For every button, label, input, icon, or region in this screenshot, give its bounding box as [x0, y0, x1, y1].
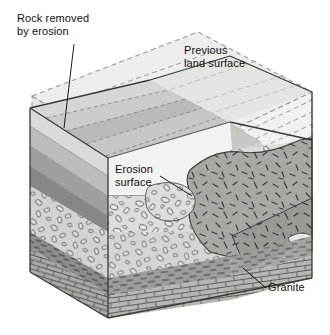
label-rock-removed: Rock removed by erosion [17, 12, 89, 37]
conglomerate-roof-pendant [146, 183, 196, 221]
label-previous-land-surface: Previous land surface [184, 44, 245, 69]
label-erosion-surface: Erosion surface [115, 163, 153, 188]
figure-canvas: Rock removed by erosion Previous land su… [0, 0, 330, 335]
label-granite: Granite [268, 281, 305, 294]
